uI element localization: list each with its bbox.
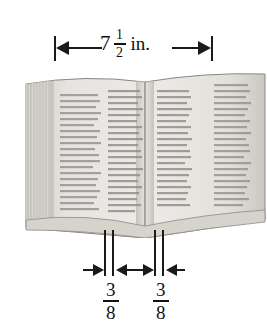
gutter-2-numerator: 3 bbox=[153, 280, 169, 300]
top-dimension-numerator: 1 bbox=[114, 28, 125, 43]
text-column-4 bbox=[214, 84, 251, 206]
top-dimension-whole-number: 7 bbox=[100, 33, 111, 54]
gutter-2-denominator: 8 bbox=[153, 302, 169, 322]
left-page-edge-stack bbox=[26, 78, 54, 234]
arrow-left-icon-1 bbox=[116, 264, 127, 276]
top-dimension-denominator: 2 bbox=[114, 45, 125, 60]
open-book-illustration bbox=[24, 70, 267, 238]
dimension-rule-left bbox=[64, 47, 102, 49]
arrow-right-icon bbox=[198, 41, 211, 55]
arrow-left-icon bbox=[56, 41, 69, 55]
arrow-left-icon-2 bbox=[166, 264, 177, 276]
gutter-1-numerator: 3 bbox=[103, 280, 119, 300]
gutter-dimension-label-1: 3 8 bbox=[103, 280, 119, 322]
gutter-extension-line-1 bbox=[104, 230, 106, 276]
book-svg bbox=[24, 70, 267, 238]
extension-line-right bbox=[211, 36, 213, 61]
top-dimension-unit: in. bbox=[131, 34, 151, 53]
text-column-2 bbox=[108, 90, 143, 212]
gutter-dimension-label-2: 3 8 bbox=[153, 280, 169, 322]
bottom-dimension-annotation: 3 8 3 8 bbox=[0, 230, 267, 332]
top-dimension-fraction: 1 2 bbox=[114, 28, 126, 60]
gutter-extension-line-3 bbox=[154, 230, 156, 276]
gutter-rule-outer-right bbox=[176, 269, 185, 271]
arrow-right-icon-2 bbox=[143, 264, 154, 276]
gutter-extension-line-2 bbox=[112, 230, 114, 276]
book-dimension-figure: 7 1 2 in. bbox=[0, 0, 267, 332]
arrow-right-icon-1 bbox=[93, 264, 104, 276]
top-dimension-label: 7 1 2 in. bbox=[100, 28, 150, 60]
gutter-1-denominator: 8 bbox=[103, 302, 119, 322]
gutter-extension-line-4 bbox=[162, 230, 164, 276]
